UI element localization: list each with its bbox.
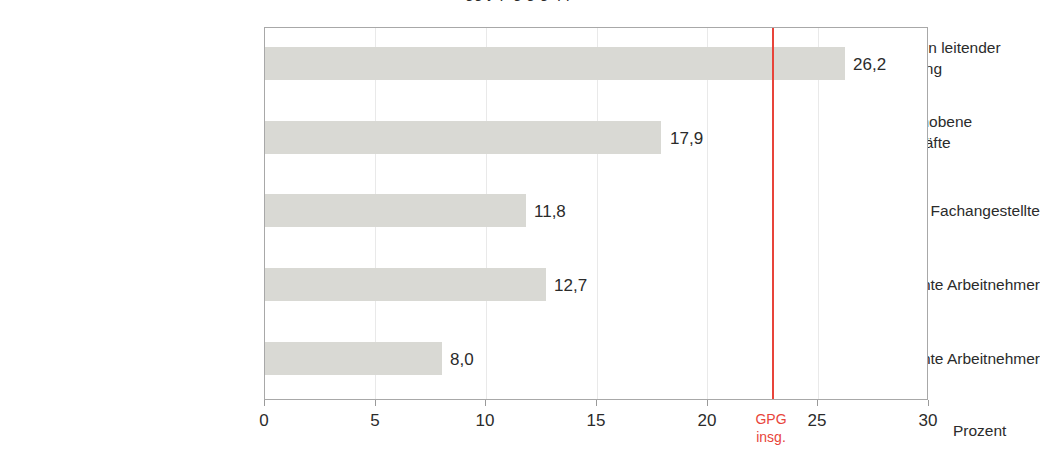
tick-mark-5 (375, 400, 376, 406)
tick-mark-25 (817, 400, 818, 406)
x-axis-unit-label: Prozent (953, 422, 1006, 440)
reference-line-gpg (772, 28, 774, 399)
tick-label-30: 30 (919, 411, 938, 431)
tick-label-5: 5 (370, 411, 379, 431)
bar-value-label: 12,7 (554, 277, 587, 294)
bar-angelernte-arbeitnehmer[interactable] (265, 268, 546, 301)
category-label-line: Fachangestellte (931, 202, 1040, 219)
tick-label-0: 0 (259, 411, 268, 431)
gridline-25 (818, 28, 819, 399)
tick-mark-10 (485, 400, 486, 406)
tick-mark-20 (707, 400, 708, 406)
tick-mark-0 (264, 400, 265, 406)
tick-mark-30 (928, 400, 929, 406)
bar-ungelernte-arbeitnehmer[interactable] (265, 342, 442, 375)
reference-line-label-line: insg. (756, 429, 786, 445)
bar-fachangestellte[interactable] (265, 194, 526, 227)
bar-value-label: 11,8 (534, 203, 566, 220)
plot-area (264, 27, 928, 400)
bar-herausgehobene-fachkraefte[interactable] (265, 121, 661, 154)
bar-value-label: 26,2 (853, 56, 886, 73)
gridline-20 (707, 28, 708, 399)
tick-mark-15 (596, 400, 597, 406)
bar-value-label: 17,9 (670, 130, 703, 147)
gridline-15 (597, 28, 598, 399)
tick-label-20: 20 (698, 411, 717, 431)
tick-label-10: 10 (476, 411, 495, 431)
reference-line-label: GPG insg. (748, 411, 794, 446)
tick-label-25: 25 (808, 411, 827, 431)
tick-label-15: 15 (587, 411, 606, 431)
bar-arbeitnehmer-in-leitender-stellung[interactable] (265, 47, 845, 80)
bar-chart-figure: Arbeitnehmer in leitender Stellung herau… (0, 0, 1040, 462)
bar-value-label: 8,0 (450, 351, 474, 368)
reference-line-label-line: GPG (755, 411, 786, 427)
